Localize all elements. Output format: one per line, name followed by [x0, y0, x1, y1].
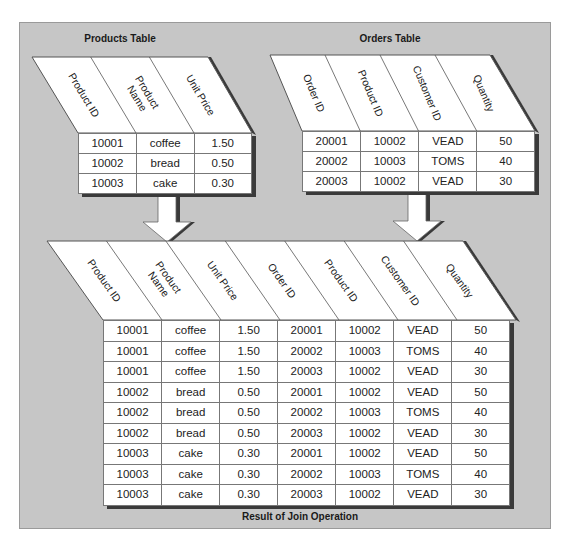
- table-cell: coffee: [162, 321, 220, 342]
- table-cell: 0.50: [220, 382, 278, 403]
- table-cell: 10002: [104, 403, 162, 424]
- table-row: 2000210003TOMS40: [303, 152, 535, 172]
- table-cell: 40: [477, 152, 535, 172]
- table-cell: 0.50: [220, 423, 278, 444]
- table-cell: 0.30: [220, 444, 278, 465]
- join-table-header: Product IDProductNameUnit PriceOrder IDP…: [47, 241, 520, 322]
- table-row: 10001coffee1.50: [79, 134, 252, 154]
- table-cell: VEAD: [419, 172, 477, 192]
- table-cell: VEAD: [394, 444, 452, 465]
- table-cell: 10003: [336, 464, 394, 485]
- table-row: 10003cake0.302000210003TOMS40: [104, 464, 510, 485]
- table-cell: 20002: [303, 152, 361, 172]
- table-cell: 10001: [79, 134, 137, 154]
- table-cell: cake: [162, 444, 220, 465]
- table-cell: 20003: [278, 485, 336, 506]
- table-cell: 20002: [278, 464, 336, 485]
- table-cell: 50: [452, 444, 510, 465]
- table-cell: coffee: [162, 362, 220, 383]
- table-cell: 10003: [79, 174, 137, 194]
- table-cell: bread: [162, 403, 220, 424]
- table-cell: 0.50: [220, 403, 278, 424]
- table-row: 10003cake0.302000310002VEAD30: [104, 485, 510, 506]
- table-cell: 0.50: [194, 154, 251, 174]
- table-cell: 50: [452, 321, 510, 342]
- table-cell: 10002: [336, 444, 394, 465]
- table-cell: 10003: [336, 341, 394, 362]
- table-cell: VEAD: [394, 362, 452, 383]
- table-cell: VEAD: [419, 132, 477, 152]
- table-row: 2000310002VEAD30: [303, 172, 535, 192]
- table-cell: bread: [162, 423, 220, 444]
- products-table-header: Product IDProductNameUnit Price: [32, 57, 256, 135]
- orders-table-header: Order IDProduct IDCustomer IDQuantity: [270, 55, 539, 133]
- table-cell: VEAD: [394, 321, 452, 342]
- table-cell: 20003: [278, 362, 336, 383]
- table-cell: 10002: [336, 423, 394, 444]
- table-cell: 10001: [104, 321, 162, 342]
- table-cell: 10002: [104, 382, 162, 403]
- table-cell: 20003: [278, 423, 336, 444]
- orders-table-body: 2000110002VEAD502000210003TOMS4020003100…: [302, 131, 535, 192]
- table-cell: TOMS: [394, 341, 452, 362]
- table-cell: coffee: [136, 134, 194, 154]
- table-cell: 20002: [278, 341, 336, 362]
- table-cell: 40: [452, 341, 510, 362]
- table-cell: 50: [452, 382, 510, 403]
- table-cell: 10003: [361, 152, 419, 172]
- table-row: 10003cake0.30: [79, 174, 252, 194]
- table-cell: 10002: [104, 423, 162, 444]
- join-arrows: [143, 191, 445, 244]
- table-cell: 20001: [278, 321, 336, 342]
- table-cell: VEAD: [394, 382, 452, 403]
- table-row: 10003cake0.302000110002VEAD50: [104, 444, 510, 465]
- table-cell: 10003: [104, 444, 162, 465]
- down-arrow-icon: [143, 193, 191, 242]
- table-cell: 0.30: [220, 485, 278, 506]
- table-cell: TOMS: [419, 152, 477, 172]
- table-cell: 30: [452, 423, 510, 444]
- table-cell: 30: [452, 485, 510, 506]
- table-cell: VEAD: [394, 423, 452, 444]
- table-cell: 10002: [361, 132, 419, 152]
- table-cell: 0.30: [220, 464, 278, 485]
- table-cell: 1.50: [194, 134, 251, 154]
- join-result-table-body: 10001coffee1.502000110002VEAD5010001coff…: [103, 320, 510, 506]
- table-cell: 0.30: [194, 174, 251, 194]
- table-cell: 10002: [79, 154, 137, 174]
- table-cell: 30: [477, 172, 535, 192]
- table-cell: 20001: [278, 444, 336, 465]
- down-arrow-icon: [393, 191, 441, 241]
- table-cell: 10003: [104, 485, 162, 506]
- table-cell: 20003: [303, 172, 361, 192]
- table-cell: VEAD: [394, 485, 452, 506]
- table-cell: 30: [452, 362, 510, 383]
- table-row: 10001coffee1.502000310002VEAD30: [104, 362, 510, 383]
- table-cell: 20001: [303, 132, 361, 152]
- table-cell: 40: [452, 403, 510, 424]
- table-cell: 10001: [104, 341, 162, 362]
- table-cell: cake: [162, 464, 220, 485]
- table-cell: 10002: [336, 485, 394, 506]
- table-cell: bread: [162, 382, 220, 403]
- table-cell: 10001: [104, 362, 162, 383]
- table-row: 10001coffee1.502000110002VEAD50: [104, 321, 510, 342]
- table-cell: TOMS: [394, 464, 452, 485]
- table-row: 10002bread0.50: [79, 154, 252, 174]
- table-cell: cake: [162, 485, 220, 506]
- table-row: 10001coffee1.502000210003TOMS40: [104, 341, 510, 362]
- table-cell: 1.50: [220, 321, 278, 342]
- table-cell: coffee: [162, 341, 220, 362]
- products-table-body: 10001coffee1.5010002bread0.5010003cake0.…: [78, 133, 252, 194]
- table-cell: 10002: [336, 362, 394, 383]
- table-row: 2000110002VEAD50: [303, 132, 535, 152]
- table-cell: 50: [477, 132, 535, 152]
- table-cell: 10002: [336, 382, 394, 403]
- table-cell: 1.50: [220, 341, 278, 362]
- table-cell: 20001: [278, 382, 336, 403]
- table-cell: 10002: [361, 172, 419, 192]
- table-cell: 20002: [278, 403, 336, 424]
- table-cell: 10003: [336, 403, 394, 424]
- table-row: 10002bread0.502000310002VEAD30: [104, 423, 510, 444]
- table-cell: cake: [136, 174, 194, 194]
